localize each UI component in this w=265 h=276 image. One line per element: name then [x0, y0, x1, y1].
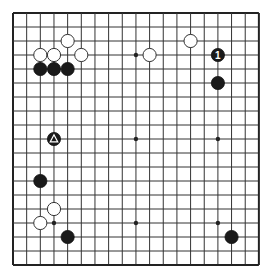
white-stone[interactable]: [34, 216, 47, 229]
go-board[interactable]: 1: [0, 0, 265, 276]
black-stone[interactable]: [34, 174, 47, 187]
black-stone[interactable]: [61, 62, 74, 75]
white-stone[interactable]: [143, 48, 156, 61]
star-point: [52, 221, 56, 225]
black-stone[interactable]: [61, 230, 74, 243]
white-stone[interactable]: [47, 202, 60, 215]
white-stone[interactable]: [75, 48, 88, 61]
white-stone[interactable]: [61, 34, 74, 47]
move-number-label: 1: [215, 50, 221, 61]
star-point: [134, 137, 138, 141]
black-stone[interactable]: 1: [211, 48, 224, 61]
star-point: [216, 221, 220, 225]
black-stone[interactable]: [47, 62, 60, 75]
white-stone[interactable]: [184, 34, 197, 47]
white-stone[interactable]: [47, 48, 60, 61]
black-stone[interactable]: [225, 230, 238, 243]
black-stone[interactable]: [47, 132, 60, 145]
white-stone[interactable]: [34, 48, 47, 61]
star-point: [216, 137, 220, 141]
black-stone[interactable]: [211, 76, 224, 89]
black-stone[interactable]: [34, 62, 47, 75]
star-point: [134, 221, 138, 225]
star-point: [134, 53, 138, 57]
